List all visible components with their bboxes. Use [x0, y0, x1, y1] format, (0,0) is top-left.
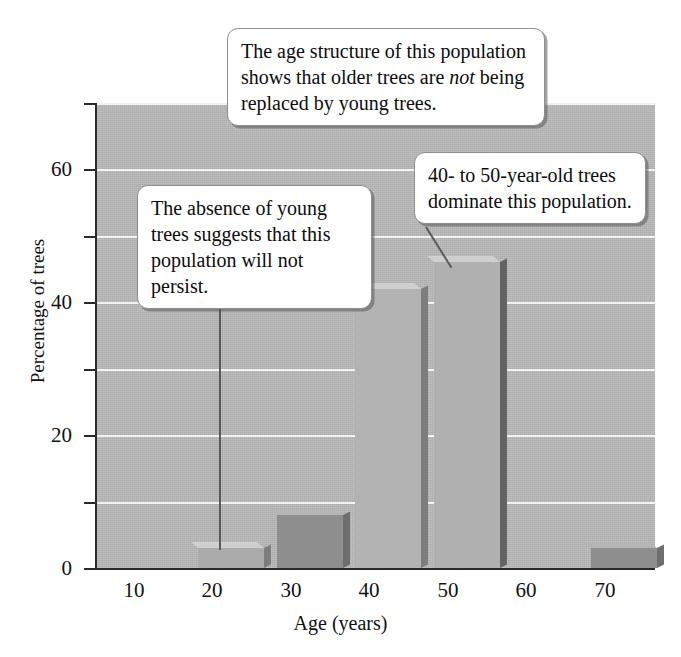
bar-50 — [434, 262, 500, 568]
callout-top-line1: The age structure of this population — [241, 38, 531, 64]
callout-top: The age structure of this population sho… — [227, 28, 545, 126]
x-tick-label-70: 70 — [575, 578, 635, 603]
x-tick-label-50: 50 — [418, 578, 478, 603]
x-axis-line — [95, 568, 655, 570]
bar-40 — [355, 289, 421, 568]
callout-left-line3: population will not persist. — [151, 247, 358, 299]
y-tick-70 — [84, 103, 96, 105]
y-tick-40 — [84, 302, 96, 304]
y-tick-0 — [84, 568, 96, 570]
callout-top-line2-b: being — [475, 66, 524, 88]
callout-top-line2-a: shows that older trees are — [241, 66, 449, 88]
callout-top-emphasis: not — [449, 66, 475, 88]
bar-20-top — [191, 542, 264, 548]
y-tick-50 — [84, 236, 96, 238]
bar-50-side — [500, 259, 507, 568]
bar-30 — [277, 515, 343, 568]
bar-50-top — [427, 256, 500, 262]
callout-left: The absence of young trees suggests that… — [137, 185, 372, 309]
y-tick-10 — [84, 502, 96, 504]
x-tick-label-30: 30 — [261, 578, 321, 603]
bar-20 — [198, 548, 264, 568]
callout-right: 40- to 50-year-old trees dominate this p… — [414, 152, 646, 224]
bar-chart: 0 20 40 60 Percentage of trees 10 20 30 … — [0, 0, 681, 657]
y-tick-60 — [84, 169, 96, 171]
bar-30-top — [270, 509, 343, 515]
y-tick-label-60: 60 — [28, 157, 72, 182]
bar-40-face — [355, 289, 421, 568]
leader-line-left-callout — [219, 278, 221, 550]
bar-30-side — [343, 512, 350, 568]
bar-50-face — [434, 262, 500, 568]
bar-20-side — [264, 545, 271, 568]
callout-top-line2: shows that older trees are not being — [241, 64, 531, 90]
bar-70-side — [657, 545, 664, 568]
x-tick-label-40: 40 — [339, 578, 399, 603]
x-tick-label-10: 10 — [104, 578, 164, 603]
bar-30-face — [277, 515, 343, 568]
x-tick-label-20: 20 — [182, 578, 242, 603]
y-axis-line — [95, 103, 97, 570]
y-tick-20 — [84, 435, 96, 437]
x-tick-label-60: 60 — [496, 578, 556, 603]
callout-left-line1: The absence of young — [151, 195, 358, 221]
bar-70 — [591, 548, 657, 568]
callout-top-line3: replaced by young trees. — [241, 90, 531, 116]
y-tick-label-0: 0 — [28, 556, 72, 581]
callout-right-line1: 40- to 50-year-old trees — [428, 162, 632, 188]
y-tick-30 — [84, 369, 96, 371]
x-axis-title: Age (years) — [0, 612, 681, 635]
callout-left-line2: trees suggests that this — [151, 221, 358, 247]
bar-70-top — [584, 542, 657, 548]
bar-40-side — [421, 286, 428, 568]
y-axis-title: Percentage of trees — [27, 181, 49, 441]
bar-20-face — [198, 548, 264, 568]
bar-70-face — [591, 548, 657, 568]
callout-right-line2: dominate this population. — [428, 188, 632, 214]
